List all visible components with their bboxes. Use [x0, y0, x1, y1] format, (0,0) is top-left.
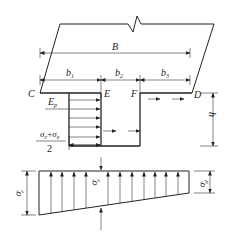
label-sigma-d: σd: [196, 177, 210, 190]
label-sigma-c: σc: [12, 186, 26, 198]
diagram-canvas: B b1 b2 b3 C E F D Ep h: [0, 0, 228, 241]
dimension-sigma-d: σd: [194, 171, 215, 193]
label-b3: b3: [161, 67, 169, 79]
label-Ep: Ep: [47, 96, 57, 108]
fraction-label: σc+σe 2: [36, 129, 100, 154]
label-E: E: [103, 88, 110, 99]
label-h: h: [207, 112, 218, 117]
dimension-sigma-c: σc: [12, 171, 36, 215]
dimension-B: B: [40, 41, 190, 58]
dimension-h: h: [200, 93, 218, 146]
label-F: F: [130, 88, 138, 99]
label-B: B: [112, 41, 118, 52]
label-sigma-e: σe: [88, 175, 102, 187]
flow-arrows: [103, 99, 184, 131]
slab-outline: [40, 16, 214, 93]
label-b1: b1: [66, 67, 74, 79]
label-C: C: [28, 88, 35, 99]
pressure-distribution: σe: [39, 171, 189, 215]
label-D: D: [193, 89, 202, 100]
label-b2: b2: [115, 67, 123, 79]
base-outline: [40, 93, 192, 146]
fraction-numerator: σc+σe: [40, 129, 60, 140]
fraction-denominator: 2: [47, 143, 52, 154]
